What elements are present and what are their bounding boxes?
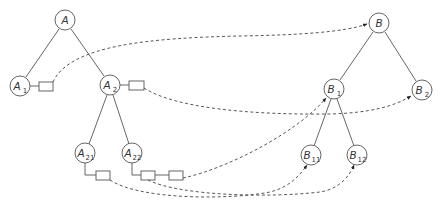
svg-text:B: B bbox=[303, 149, 310, 161]
edge-b1-b12 bbox=[337, 99, 354, 146]
node-a21[interactable]: A 21 bbox=[75, 143, 95, 163]
svg-text:A: A bbox=[102, 79, 110, 91]
tree-mapping-diagram: A A 1 A 2 A 21 A 22 B B bbox=[0, 0, 441, 205]
edge-b-b2 bbox=[385, 32, 416, 81]
edge-a2-a21 bbox=[89, 95, 107, 144]
svg-text:11: 11 bbox=[312, 156, 321, 164]
node-b[interactable]: B bbox=[369, 13, 389, 33]
pointer-a1-to-b bbox=[53, 24, 367, 82]
pointer-box-a1[interactable] bbox=[39, 82, 53, 91]
pointer-a22-second-to-b1 bbox=[183, 98, 326, 178]
pointer-a2-to-b2 bbox=[144, 88, 411, 114]
svg-text:B: B bbox=[327, 83, 334, 95]
connector-a21 bbox=[85, 163, 96, 175]
connector-a22 bbox=[132, 163, 141, 175]
node-a2[interactable]: A 2 bbox=[100, 75, 120, 95]
svg-text:2: 2 bbox=[113, 86, 117, 94]
tree-a-nodes: A A 1 A 2 A 21 A 22 bbox=[10, 10, 142, 163]
node-b1[interactable]: B 1 bbox=[324, 79, 344, 99]
svg-text:A: A bbox=[76, 147, 84, 159]
edge-a-a2 bbox=[71, 29, 104, 76]
svg-text:A: A bbox=[60, 14, 68, 26]
node-b12[interactable]: B 12 bbox=[347, 145, 367, 165]
node-b2[interactable]: B 2 bbox=[412, 80, 432, 100]
node-a22[interactable]: A 22 bbox=[122, 143, 142, 163]
pointer-box-a22-first[interactable] bbox=[141, 171, 155, 180]
svg-text:2: 2 bbox=[425, 91, 429, 99]
svg-text:21: 21 bbox=[86, 154, 95, 162]
svg-text:A: A bbox=[123, 147, 131, 159]
pointer-box-a21[interactable] bbox=[96, 171, 110, 180]
svg-text:B: B bbox=[375, 17, 382, 29]
svg-text:1: 1 bbox=[337, 90, 341, 98]
edge-a2-a22 bbox=[113, 95, 129, 144]
svg-text:1: 1 bbox=[23, 87, 27, 95]
svg-text:B: B bbox=[415, 84, 422, 96]
node-b11[interactable]: B 11 bbox=[301, 145, 321, 165]
pointer-box-a22-second[interactable] bbox=[169, 171, 183, 180]
pointer-box-a2[interactable] bbox=[129, 81, 144, 90]
node-a[interactable]: A bbox=[55, 10, 75, 30]
svg-text:12: 12 bbox=[358, 156, 367, 164]
svg-text:A: A bbox=[12, 80, 20, 92]
edge-b1-b11 bbox=[314, 99, 331, 146]
edge-a-a1 bbox=[26, 29, 59, 77]
edge-b-b1 bbox=[340, 32, 373, 80]
svg-text:22: 22 bbox=[133, 154, 142, 162]
pointer-a21-to-b11 bbox=[110, 165, 307, 197]
svg-text:B: B bbox=[349, 149, 356, 161]
tree-b-nodes: B B 1 B 2 B 11 B 12 bbox=[301, 13, 432, 165]
node-a1[interactable]: A 1 bbox=[10, 76, 30, 96]
